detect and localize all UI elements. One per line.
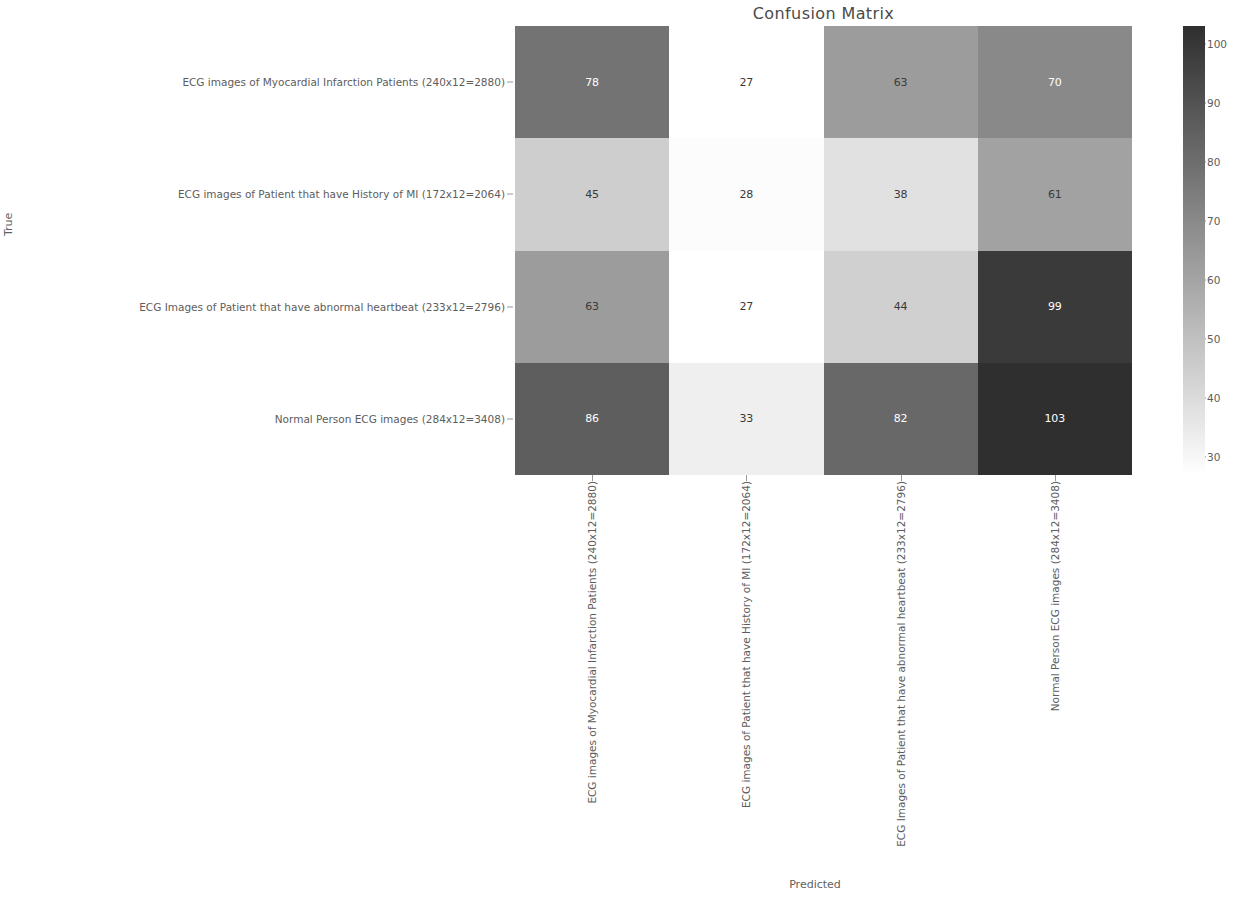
x-axis-tick-label: ECG Images of Patient that have abnormal… [895,481,907,853]
colorbar-tick-label: 100 [1207,38,1227,50]
confusion-matrix-figure: Confusion Matrix 78276370452838616327449… [0,0,1253,897]
x-axis-title: Predicted [765,878,865,891]
colorbar [1183,26,1205,475]
colorbar-tick-label: 40 [1207,392,1220,404]
y-axis-tick-label: ECG images of Myocardial Infarction Pati… [0,76,505,88]
colorbar-tick-label: 70 [1207,215,1220,227]
colorbar-tick-label: 80 [1207,156,1220,168]
y-axis-tick-mark [507,418,513,419]
y-axis-tick-mark [507,306,513,307]
y-axis-tick-mark [507,194,513,195]
y-axis-tick-labels: ECG images of Myocardial Infarction Pati… [0,0,1253,897]
x-axis-tick-label: ECG images of Patient that have History … [740,481,752,853]
colorbar-tick-label: 90 [1207,97,1220,109]
y-axis-title: True [2,213,15,236]
y-axis-tick-label: Normal Person ECG images (284x12=3408) [0,413,505,425]
colorbar-tick-label: 50 [1207,333,1220,345]
x-axis-tick-label: Normal Person ECG images (284x12=3408) [1049,481,1061,853]
colorbar-gradient [1183,26,1205,475]
y-axis-tick-label: ECG Images of Patient that have abnormal… [0,301,505,313]
colorbar-tick-label: 30 [1207,451,1220,463]
y-axis-tick-label: ECG images of Patient that have History … [0,188,505,200]
x-axis-tick-label: ECG images of Myocardial Infarction Pati… [586,481,598,853]
colorbar-tick-label: 60 [1207,274,1220,286]
y-axis-tick-mark [507,82,513,83]
